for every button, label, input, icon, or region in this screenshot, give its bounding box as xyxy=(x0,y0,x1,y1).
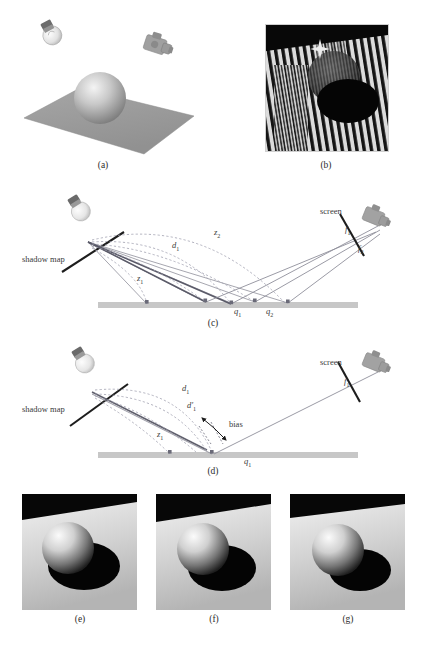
label-d1-prime-d: d′1 xyxy=(187,400,196,412)
camera-icon-d xyxy=(362,348,395,376)
ground-bar-d xyxy=(98,452,358,458)
sphere-f xyxy=(177,523,229,575)
camera-icon-c xyxy=(362,202,395,230)
label-shadow-map-c: shadow map xyxy=(22,254,65,264)
label-q1-c: q1 xyxy=(234,306,241,318)
label-d1-d: d1 xyxy=(182,383,189,395)
sphere-shadow-b xyxy=(317,79,379,123)
caption-b: (b) xyxy=(306,160,346,170)
label-z1-c: z1 xyxy=(137,273,143,285)
label-q1-d: q1 xyxy=(244,456,251,468)
panel-a-render xyxy=(14,18,204,158)
light-bulb-icon-d xyxy=(68,344,98,377)
caption-f: (f) xyxy=(194,614,234,624)
label-f1-d: f1 xyxy=(344,376,349,388)
label-f2-c: f2 xyxy=(358,243,363,255)
label-shadow-map-d: shadow map xyxy=(22,404,65,414)
label-d1-c: d1 xyxy=(172,240,179,252)
sphere-a xyxy=(74,72,126,124)
label-screen-c: screen xyxy=(320,206,342,216)
panel-g-render xyxy=(290,494,405,610)
label-bias-d: bias xyxy=(229,419,243,429)
caption-a: (a) xyxy=(83,160,123,170)
camera-icon xyxy=(143,30,177,58)
label-q2-c: q2 xyxy=(266,306,273,318)
caption-e: (e) xyxy=(60,614,100,624)
label-screen-d: screen xyxy=(320,357,342,367)
label-f1-c: f1 xyxy=(345,224,350,236)
light-rays-c xyxy=(88,242,288,304)
light-bulb-icon xyxy=(37,18,66,48)
figure-root: (a) xyxy=(0,0,426,654)
caption-c: (c) xyxy=(193,318,233,328)
label-z1-d: z1 xyxy=(157,429,163,441)
camera-ray-d xyxy=(214,372,378,454)
sphere-e xyxy=(42,522,94,574)
sphere-g xyxy=(312,524,364,576)
panel-e-render xyxy=(22,494,137,610)
label-z2-c: z2 xyxy=(214,227,220,239)
panel-b-render xyxy=(265,24,389,152)
panel-f-render xyxy=(156,494,271,610)
caption-d: (d) xyxy=(193,466,233,476)
caption-g: (g) xyxy=(328,614,368,624)
light-bulb-icon-c xyxy=(64,192,94,225)
